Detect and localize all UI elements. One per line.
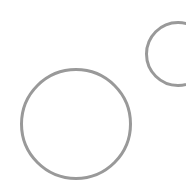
large-circle-shape: [22, 70, 131, 179]
shapes-layer: [0, 0, 186, 194]
diagram-canvas: [0, 0, 186, 194]
small-circle-shape: [147, 23, 187, 86]
